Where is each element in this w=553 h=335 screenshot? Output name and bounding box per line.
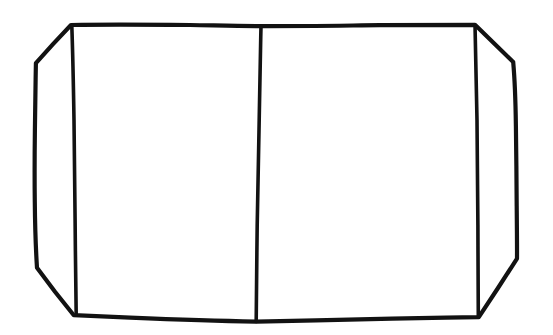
panel-group: [35, 25, 517, 321]
left-main-panel: [72, 26, 261, 321]
drawing-canvas: [0, 0, 553, 335]
sketch-svg-root: [0, 0, 553, 335]
right-main-panel: [256, 25, 478, 321]
